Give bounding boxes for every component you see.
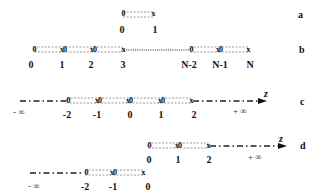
label-d-lower-0: 0 (146, 182, 151, 192)
label-b-2: 2 (89, 60, 94, 70)
label-d-lower-m2: -2 (81, 182, 89, 192)
label-b-1: 1 (60, 60, 65, 70)
label-d-2: 2 (207, 155, 212, 165)
node-c-m2: 0 (67, 97, 70, 105)
node-b-2: x0 (90, 46, 96, 54)
label-c-0: 0 (128, 110, 133, 120)
axis-z-c: z (264, 89, 268, 99)
node-d-lower-0: x (142, 169, 145, 177)
label-b-n2: N-2 (181, 60, 197, 70)
panel-tag-c: c (300, 97, 304, 107)
node-b-0: 0 (33, 46, 36, 54)
label-c-m2: -2 (63, 110, 71, 120)
panel-tag-d: d (300, 141, 306, 151)
label-c-1: 1 (159, 110, 164, 120)
label-c-m1: -1 (93, 110, 101, 120)
node-c-0: x0 (126, 97, 132, 105)
node-c-1: x0 (158, 97, 164, 105)
label-d-1: 1 (176, 155, 181, 165)
node-a-1: x (152, 10, 155, 18)
node-d-1: x0 (175, 142, 181, 150)
node-d-lower-m1: x0 (110, 169, 116, 177)
minus-infinity-c: - ∞ (13, 108, 25, 117)
label-c-2: 2 (192, 110, 197, 120)
node-c-m1: x0 (95, 97, 101, 105)
label-a-1: 1 (153, 25, 158, 35)
plus-infinity-d: + ∞ (248, 153, 262, 162)
node-b-3: x (122, 46, 125, 54)
node-b-n: x (247, 46, 250, 54)
label-d-lower-m1: -1 (109, 182, 117, 192)
label-b-n1: N-1 (212, 60, 228, 70)
minus-infinity-d: - ∞ (28, 182, 40, 191)
node-b-1: x0 (60, 46, 66, 54)
label-a-0: 0 (120, 25, 125, 35)
label-d-0: 0 (147, 155, 152, 165)
node-d-lower-m2: 0 (85, 169, 88, 177)
node-c-2: x (190, 97, 193, 105)
node-d-2: x (207, 142, 210, 150)
label-b-n: N (246, 60, 253, 70)
node-b-n1: x0 (216, 46, 222, 54)
node-d-0: 0 (148, 142, 151, 150)
plus-infinity-c: + ∞ (233, 107, 247, 116)
axis-z-d: z (279, 134, 283, 144)
node-b-n2: 0 (190, 46, 193, 54)
label-b-3: 3 (121, 60, 126, 70)
label-b-0: 0 (29, 60, 34, 70)
panel-tag-b: b (299, 45, 305, 55)
node-a-0: 0 (122, 10, 125, 18)
panel-tag-a: a (298, 10, 303, 20)
